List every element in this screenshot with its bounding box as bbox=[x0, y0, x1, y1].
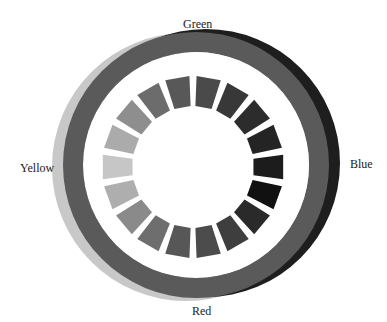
color-wheel-diagram bbox=[0, 0, 387, 322]
label-yellow: Yellow bbox=[20, 162, 54, 174]
label-red: Red bbox=[192, 305, 211, 317]
label-green: Green bbox=[183, 18, 212, 30]
outer-rings bbox=[52, 29, 340, 301]
wheel-segment bbox=[253, 155, 283, 180]
label-blue: Blue bbox=[350, 158, 373, 170]
wheel-segment bbox=[103, 155, 133, 180]
